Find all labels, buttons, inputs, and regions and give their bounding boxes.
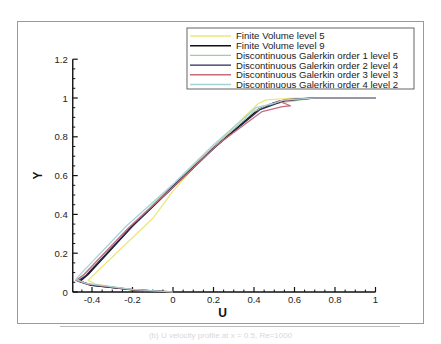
x-tick-label: 0.6: [288, 294, 301, 305]
series-line: [88, 98, 376, 292]
axes: -0.4-0.200.20.40.60.8100.20.40.60.811.2U…: [31, 54, 378, 320]
y-tick-label: 1.2: [55, 54, 68, 65]
y-tick-label: 1: [62, 93, 67, 104]
y-tick-label: 0.6: [55, 170, 68, 181]
x-tick-label: 0.2: [207, 294, 220, 305]
x-tick-label: -0.4: [84, 294, 100, 305]
x-tick-label: 0: [170, 294, 175, 305]
y-tick-label: 0.4: [55, 209, 68, 220]
series-line: [78, 98, 376, 292]
series-line: [76, 98, 376, 292]
caption-separator: [60, 326, 400, 327]
y-tick-label: 0.8: [55, 131, 68, 142]
series-line: [80, 98, 376, 292]
x-tick-label: 0.4: [247, 294, 260, 305]
y-tick-label: 0: [62, 287, 67, 298]
x-tick-label: 1: [373, 294, 378, 305]
x-axis-title: U: [218, 306, 227, 320]
legend: Finite Volume level 5Finite Volume level…: [187, 28, 414, 90]
x-tick-label: -0.2: [124, 294, 140, 305]
series-lines: [76, 98, 376, 292]
legend-label: Discontinuous Galerkin order 4 level 2: [236, 79, 398, 90]
series-line: [78, 98, 376, 292]
y-axis-title: Y: [31, 172, 45, 180]
y-tick-label: 0.2: [55, 248, 68, 259]
x-tick-label: 0.8: [328, 294, 341, 305]
series-line: [76, 98, 376, 292]
figure-caption: (b) U velocity profile at x = 0.5, Re=10…: [0, 331, 441, 340]
line-chart: -0.4-0.200.20.40.60.8100.20.40.60.811.2U…: [0, 0, 441, 344]
